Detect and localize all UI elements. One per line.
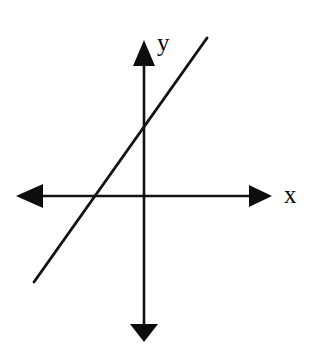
x-axis-label: x [284,182,297,207]
y-axis-label: y [157,30,170,55]
figure-root: x y [0,0,318,344]
